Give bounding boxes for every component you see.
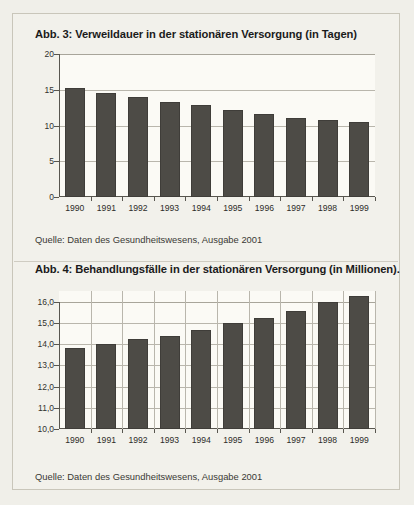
- x-axis-label: 1997: [286, 435, 305, 445]
- y-axis-line: [59, 302, 60, 429]
- bar-1995: [223, 323, 243, 429]
- x-axis-label: 1995: [223, 203, 242, 213]
- x-tickmark: [154, 429, 155, 433]
- bar-1999: [349, 296, 369, 429]
- bar-1999: [349, 122, 369, 197]
- x-tickmark: [185, 429, 186, 433]
- document-page: Abb. 3: Verweildauer in der stationären …: [0, 0, 414, 505]
- bar-1997: [286, 311, 306, 429]
- bar-1992: [128, 339, 148, 429]
- bar-1995: [223, 110, 243, 197]
- x-tickmark: [122, 197, 123, 201]
- y-axis-label: 5: [49, 156, 54, 166]
- x-tickmark: [185, 197, 186, 201]
- section-divider: [14, 261, 398, 262]
- x-tickmark: [154, 197, 155, 201]
- x-axis-label: 1990: [65, 435, 84, 445]
- x-axis-label: 1999: [350, 435, 369, 445]
- bar-1993: [160, 336, 180, 429]
- vertical-gridline: [312, 291, 313, 429]
- y-axis-label: 15: [45, 85, 54, 95]
- vertical-gridline: [154, 291, 155, 429]
- bar-1994: [191, 105, 211, 197]
- x-tickmark: [217, 429, 218, 433]
- x-tickmark: [343, 197, 344, 201]
- y-tickmark: [54, 197, 59, 198]
- x-tickmark: [122, 429, 123, 433]
- x-axis-label: 1999: [350, 203, 369, 213]
- bar-1990: [65, 348, 85, 429]
- x-axis-label: 1992: [128, 435, 147, 445]
- x-tickmark: [343, 429, 344, 433]
- bar-1994: [191, 330, 211, 429]
- figure-4-source: Quelle: Daten des Gesundheitswesens, Aus…: [35, 471, 262, 482]
- vertical-gridline: [343, 291, 344, 429]
- x-axis-label: 1995: [223, 435, 242, 445]
- vertical-gridline: [185, 291, 186, 429]
- bar-1991: [96, 93, 116, 197]
- chart-abb-3-plot-area: 0510152019901991199219931994199519961997…: [59, 54, 375, 197]
- bar-1997: [286, 118, 306, 197]
- x-axis-label: 1992: [128, 203, 147, 213]
- x-tickmark: [91, 197, 92, 201]
- y-axis-label: 14,0: [37, 339, 54, 349]
- bar-1998: [318, 302, 338, 429]
- x-axis-label: 1993: [160, 203, 179, 213]
- bar-1990: [65, 88, 85, 197]
- vertical-gridline: [249, 291, 250, 429]
- figure-3-title: Abb. 3: Verweildauer in der stationären …: [35, 28, 357, 40]
- bar-1992: [128, 97, 148, 197]
- x-tickmark: [91, 429, 92, 433]
- x-axis-label: 1998: [318, 203, 337, 213]
- x-tickmark: [312, 197, 313, 201]
- bar-1996: [254, 318, 274, 429]
- x-axis-label: 1998: [318, 435, 337, 445]
- x-tickmark: [280, 429, 281, 433]
- x-axis-label: 1991: [97, 435, 116, 445]
- x-tickmark: [312, 429, 313, 433]
- vertical-gridline: [375, 291, 376, 429]
- figure-abb-4: Abb. 4: Behandlungsfälle in der stationä…: [13, 263, 399, 489]
- y-axis-line: [59, 54, 60, 197]
- x-axis-label: 1994: [192, 435, 211, 445]
- bar-1993: [160, 102, 180, 197]
- y-axis-label: 13,0: [37, 360, 54, 370]
- bar-1998: [318, 120, 338, 197]
- figure-3-source: Quelle: Daten des Gesundheitswesens, Aus…: [35, 234, 262, 245]
- x-axis-label: 1996: [255, 203, 274, 213]
- y-axis-label: 15,0: [37, 318, 54, 328]
- vertical-gridline: [91, 291, 92, 429]
- vertical-gridline: [122, 291, 123, 429]
- x-tickmark: [249, 429, 250, 433]
- x-tickmark: [280, 197, 281, 201]
- x-axis-label: 1991: [97, 203, 116, 213]
- gridline: [59, 90, 375, 91]
- content-frame: Abb. 3: Verweildauer in der stationären …: [12, 13, 400, 490]
- y-axis-label: 10,0: [37, 424, 54, 434]
- y-tickmark: [54, 429, 59, 430]
- plot: 0510152019901991199219931994199519961997…: [59, 54, 375, 197]
- x-axis-label: 1994: [192, 203, 211, 213]
- y-axis-label: 11,0: [38, 403, 54, 413]
- x-tickmark: [217, 197, 218, 201]
- y-axis-label: 20: [45, 49, 54, 59]
- y-axis-label: 10: [45, 121, 54, 131]
- figure-4-title: Abb. 4: Behandlungsfälle in der stationä…: [35, 263, 400, 275]
- x-axis-label: 1993: [160, 435, 179, 445]
- y-axis-label: 12,0: [37, 382, 54, 392]
- x-tickmark: [375, 429, 376, 433]
- vertical-gridline: [280, 291, 281, 429]
- plot: 10,011,012,013,014,015,016,0199019911992…: [59, 291, 375, 429]
- x-axis-label: 1996: [255, 435, 274, 445]
- bar-1996: [254, 114, 274, 197]
- y-axis-label: 16,0: [37, 297, 54, 307]
- bar-1991: [96, 344, 116, 429]
- x-tickmark: [249, 197, 250, 201]
- x-tickmark: [375, 197, 376, 201]
- x-axis-label: 1990: [65, 203, 84, 213]
- chart-abb-4-plot-area: 10,011,012,013,014,015,016,0199019911992…: [59, 291, 375, 429]
- gridline: [59, 54, 375, 55]
- figure-abb-3: Abb. 3: Verweildauer in der stationären …: [13, 28, 399, 254]
- x-axis-label: 1997: [286, 203, 305, 213]
- vertical-gridline: [217, 291, 218, 429]
